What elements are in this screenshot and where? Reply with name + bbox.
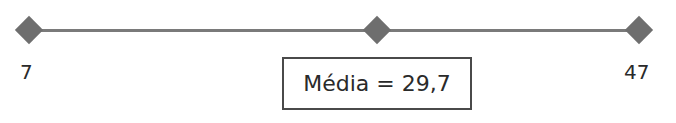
mean-diamond-marker-icon [363, 16, 391, 44]
number-line [29, 29, 639, 32]
mean-box: Média = 29,7 [282, 57, 472, 110]
max-label: 47 [624, 60, 649, 84]
min-label: 7 [20, 60, 33, 84]
max-diamond-marker-icon [625, 16, 653, 44]
mean-label: Média = 29,7 [303, 71, 450, 96]
min-diamond-marker-icon [15, 16, 43, 44]
